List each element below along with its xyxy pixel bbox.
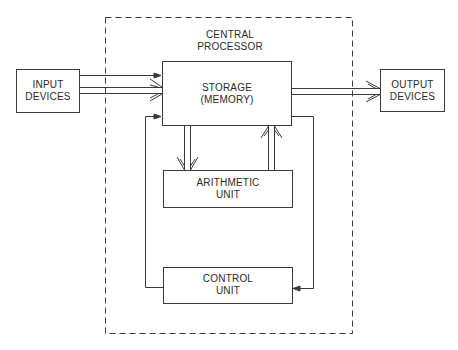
control-unit-label: CONTROL UNIT [163, 273, 293, 297]
arithmetic-to-storage-arrow [261, 126, 282, 170]
output-devices-label: OUTPUT DEVICES [380, 79, 445, 103]
input-devices-label-line2: DEVICES [16, 91, 80, 103]
input-devices-label-line1: INPUT [16, 79, 80, 91]
input-to-storage-data-arrow [80, 79, 162, 101]
arithmetic-unit-label-line1: ARITHMETIC [163, 177, 293, 189]
storage-to-arithmetic-arrow [177, 126, 198, 170]
storage-label: STORAGE (MEMORY) [162, 82, 292, 106]
output-devices-label-line2: DEVICES [380, 91, 445, 103]
control-unit-label-line1: CONTROL [163, 273, 293, 285]
storage-to-control-arrow [292, 117, 314, 292]
central-processor-label-line1: CENTRAL [185, 29, 275, 41]
storage-label-line2: (MEMORY) [162, 94, 292, 106]
control-to-storage-arrow [146, 114, 164, 288]
input-to-storage-control-arrow [80, 73, 161, 78]
control-unit-label-line2: UNIT [163, 285, 293, 297]
central-processor-label-line2: PROCESSOR [185, 41, 275, 53]
arithmetic-unit-label-line2: UNIT [163, 189, 293, 201]
input-devices-label: INPUT DEVICES [16, 79, 80, 103]
storage-label-line1: STORAGE [162, 82, 292, 94]
storage-to-output-arrow [292, 81, 380, 102]
arithmetic-unit-label: ARITHMETIC UNIT [163, 177, 293, 201]
central-processor-label: CENTRAL PROCESSOR [185, 29, 275, 53]
output-devices-label-line1: OUTPUT [380, 79, 445, 91]
